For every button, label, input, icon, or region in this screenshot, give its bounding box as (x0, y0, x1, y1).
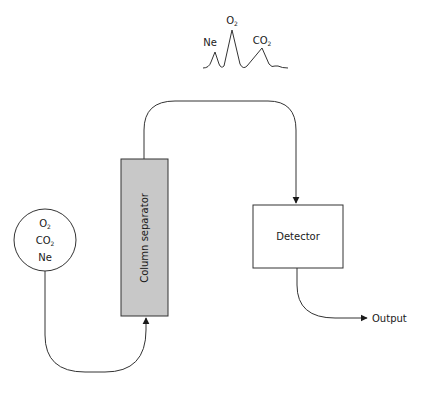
detector-to-output-line (297, 268, 367, 318)
peak-trace (203, 30, 288, 68)
peak-label-o2: O2 (226, 15, 238, 27)
peak-label-co2: CO2 (253, 35, 272, 47)
detector-label: Detector (276, 231, 320, 242)
peak-label-ne: Ne (203, 37, 217, 48)
detector-box: Detector (253, 205, 343, 268)
sample-gas-ne: Ne (38, 252, 52, 263)
column-separator: Column separator (121, 159, 168, 316)
gas-chromatography-diagram: O2 CO2 Ne Column separator Ne O2 CO2 Det… (0, 0, 426, 393)
chromatogram-peaks: Ne O2 CO2 (203, 15, 288, 68)
column-separator-label: Column separator (139, 192, 150, 283)
sample-gas-mixture: O2 CO2 Ne (14, 209, 76, 271)
output-label: Output (372, 313, 407, 324)
